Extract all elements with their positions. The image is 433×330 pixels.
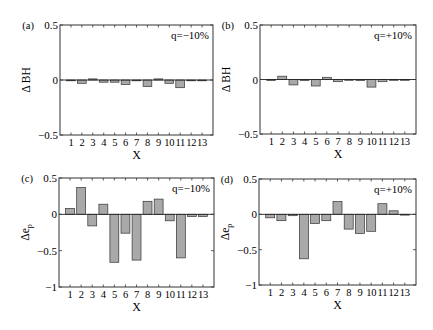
bar-10	[367, 214, 376, 231]
x-tick-label: 1	[268, 287, 273, 298]
bar-9	[355, 214, 364, 233]
x-tick-label: 3	[90, 137, 95, 148]
x-tick-label: 8	[145, 289, 150, 300]
x-tick-label: 7	[336, 136, 341, 147]
x-tick-label: 7	[134, 137, 139, 148]
x-tick-label: 10	[366, 136, 376, 147]
x-tick-label: 1	[68, 137, 73, 148]
bar-7	[132, 214, 141, 260]
bar-4	[299, 214, 308, 258]
y-tick-label: 0.5	[243, 173, 257, 185]
y-tick-label: 0.5	[43, 172, 57, 184]
x-tick-label: 12	[389, 136, 399, 147]
bar-5	[311, 214, 320, 223]
x-tick-label: 6	[324, 136, 329, 147]
bar-11	[378, 204, 387, 215]
x-tick-label: 5	[112, 137, 117, 148]
x-tick-label: 11	[176, 289, 186, 300]
bar-8	[344, 214, 353, 229]
y-tick-label: 0	[53, 74, 59, 86]
bar-3	[88, 214, 97, 226]
x-tick-label: 10	[366, 287, 376, 298]
x-tick-label: 4	[101, 137, 107, 148]
annotation-q: q=+10%	[374, 29, 412, 41]
x-tick-label: 13	[400, 136, 410, 147]
bar-11	[176, 214, 185, 258]
bar-10	[367, 80, 376, 88]
x-tick-label: 12	[186, 137, 196, 148]
bar-8	[143, 80, 152, 87]
x-tick-label: 7	[335, 287, 340, 298]
x-tick-label: 6	[123, 289, 128, 300]
x-tick-label: 1	[269, 136, 274, 147]
bar-6	[121, 80, 130, 84]
panel-label: (c)	[21, 173, 33, 185]
bar-8	[143, 201, 152, 214]
bar-12	[389, 211, 398, 215]
bar-2	[77, 187, 86, 214]
panel-label: (a)	[22, 20, 34, 32]
x-tick-label: 13	[400, 287, 410, 298]
x-tick-label: 11	[378, 136, 388, 147]
bar-5	[311, 80, 320, 87]
panel-b: 12345678910111213−0.500.5(b)q=+10%XΔ BH	[220, 19, 416, 161]
y-tick-label: −1	[45, 281, 57, 293]
y-tick-label: 0	[253, 74, 259, 86]
bar-7	[333, 202, 342, 215]
x-tick-label: 3	[290, 287, 295, 298]
bar-2	[277, 214, 286, 220]
x-tick-label: 11	[175, 137, 185, 148]
y-axis-label: Δ BH	[20, 67, 32, 93]
bar-3	[289, 80, 298, 85]
x-tick-label: 5	[313, 287, 318, 298]
y-tick-label: −0.5	[238, 128, 258, 140]
x-tick-label: 4	[301, 287, 307, 298]
bar-6	[322, 214, 331, 220]
x-axis-label: X	[334, 147, 343, 161]
x-tick-label: 1	[68, 289, 73, 300]
x-tick-label: 3	[90, 289, 95, 300]
bar-10	[165, 214, 174, 221]
x-tick-label: 2	[79, 289, 84, 300]
x-tick-label: 4	[302, 136, 308, 147]
annotation-q: q=−10%	[172, 182, 210, 194]
bar-10	[165, 80, 174, 83]
bar-9	[154, 199, 163, 214]
x-tick-label: 13	[197, 137, 207, 148]
y-tick-label: 0.5	[44, 19, 58, 31]
y-tick-label: 0	[52, 208, 58, 220]
y-axis-label: Δep	[19, 224, 34, 241]
x-tick-label: 2	[280, 136, 285, 147]
x-tick-label: 9	[156, 289, 161, 300]
x-tick-label: 3	[291, 136, 296, 147]
x-axis-label: X	[132, 148, 141, 162]
y-axis-label: Δ BH	[220, 67, 232, 93]
panel-label: (b)	[222, 20, 235, 32]
x-tick-label: 8	[347, 136, 352, 147]
x-axis-label: X	[333, 298, 342, 312]
x-tick-label: 9	[358, 136, 363, 147]
annotation-q: q=−10%	[171, 29, 209, 41]
panel-d: 12345678910111213−1−0.500.5(d)q=+10%XΔep	[219, 173, 416, 312]
x-tick-label: 8	[145, 137, 150, 148]
x-tick-label: 6	[324, 287, 329, 298]
bar-5	[110, 214, 119, 262]
y-tick-label: 0.5	[244, 19, 258, 31]
y-axis-label: Δep	[219, 224, 234, 241]
x-tick-label: 12	[187, 289, 197, 300]
annotation-q: q=+10%	[374, 183, 412, 195]
x-tick-label: 8	[346, 287, 351, 298]
y-tick-label: 0	[252, 208, 258, 220]
panel-label: (d)	[221, 174, 234, 186]
bar-11	[176, 80, 185, 88]
x-tick-label: 10	[164, 137, 174, 148]
y-tick-label: −0.5	[37, 245, 57, 257]
x-tick-label: 2	[279, 287, 284, 298]
x-tick-label: 11	[378, 287, 388, 298]
y-tick-label: −0.5	[38, 129, 58, 141]
figure-canvas: 12345678910111213−0.500.5(a)q=−10%XΔ BH1…	[0, 0, 433, 330]
bar-6	[121, 214, 130, 233]
x-tick-label: 4	[101, 289, 107, 300]
x-tick-label: 13	[198, 289, 208, 300]
x-axis-label: X	[132, 300, 141, 314]
